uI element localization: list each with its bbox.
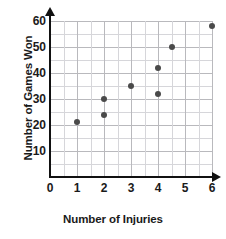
y-tick-label: 50: [22, 40, 46, 54]
y-tick-label: 20: [22, 118, 46, 132]
data-point: [155, 91, 161, 97]
gridline-vertical: [118, 21, 119, 177]
x-axis-line: [50, 176, 214, 178]
y-tick-label: 30: [22, 92, 46, 106]
x-tick-label: 2: [94, 181, 114, 195]
x-tick-label: 6: [202, 181, 222, 195]
plot-area: [50, 21, 212, 177]
y-tick-label: 60: [22, 14, 46, 28]
x-axis-title: Number of Injuries: [0, 213, 226, 225]
gridline-vertical: [199, 21, 200, 177]
data-point: [128, 83, 134, 89]
data-point: [155, 65, 161, 71]
gridline-vertical: [131, 21, 132, 177]
x-tick-label: 4: [148, 181, 168, 195]
x-tick-label: 3: [121, 181, 141, 195]
y-tick-label: 40: [22, 66, 46, 80]
gridline-vertical: [64, 21, 65, 177]
x-tick-label: 0: [40, 181, 60, 195]
gridline-vertical: [212, 21, 213, 177]
data-point: [169, 44, 175, 50]
data-point: [209, 23, 215, 29]
x-tick-label: 5: [175, 181, 195, 195]
y-tick-label: 10: [22, 144, 46, 158]
gridline-vertical: [145, 21, 146, 177]
scatter-plot-chart: Number of Games Won Number of Injuries 1…: [0, 0, 226, 239]
gridline-vertical: [158, 21, 159, 177]
gridline-vertical: [185, 21, 186, 177]
y-axis-line: [49, 14, 51, 178]
x-tick-label: 1: [67, 181, 87, 195]
data-point: [101, 96, 107, 102]
y-axis-arrow-icon: [45, 7, 55, 16]
data-point: [101, 112, 107, 118]
gridline-vertical: [77, 21, 78, 177]
gridline-vertical: [91, 21, 92, 177]
